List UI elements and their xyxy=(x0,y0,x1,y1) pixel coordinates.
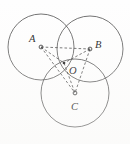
point-marker-O xyxy=(63,62,66,65)
geometry-figure: A B C O xyxy=(0,0,130,144)
point-label-A: A xyxy=(28,33,36,44)
segment-A-B xyxy=(41,47,90,49)
point-label-C: C xyxy=(71,101,79,112)
point-label-O: O xyxy=(69,65,77,76)
point-label-B: B xyxy=(95,39,102,50)
segment-A-O xyxy=(41,47,64,63)
figure-canvas: A B C O xyxy=(0,0,130,144)
